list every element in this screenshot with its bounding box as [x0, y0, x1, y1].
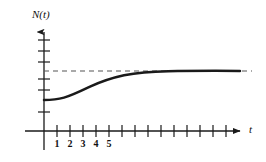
x-tick-label-5: 5 — [104, 139, 114, 149]
x-axis — [25, 125, 240, 137]
x-tick-label-2: 2 — [65, 139, 75, 149]
y-axis — [38, 32, 50, 150]
x-tick-label-3: 3 — [78, 139, 88, 149]
x-tick-label-1: 1 — [52, 139, 62, 149]
logistic-growth-curve — [44, 71, 240, 100]
x-tick-label-4: 4 — [91, 139, 101, 149]
plot-canvas — [0, 0, 266, 162]
logistic-growth-figure: N(t) t 1 2 3 4 5 — [0, 0, 266, 162]
x-axis-label: t — [249, 124, 252, 135]
y-axis-label: N(t) — [32, 9, 50, 20]
